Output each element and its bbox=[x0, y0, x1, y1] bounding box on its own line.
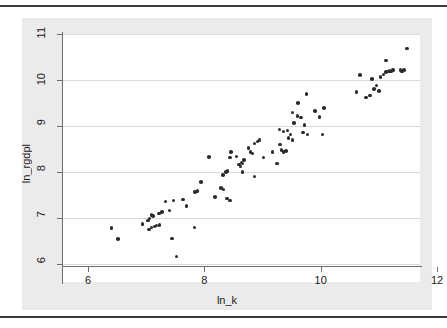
scatter-point bbox=[377, 89, 381, 93]
scatter-point bbox=[286, 129, 290, 133]
scatter-point bbox=[275, 162, 279, 166]
scatter-point bbox=[379, 75, 383, 79]
scatter-point bbox=[253, 175, 257, 179]
x-tick-label: 8 bbox=[194, 274, 214, 286]
scatter-point bbox=[110, 226, 114, 230]
scatter-point bbox=[391, 68, 395, 72]
scatter-point bbox=[170, 237, 174, 241]
scatter-point bbox=[299, 116, 303, 120]
scatter-point bbox=[116, 237, 120, 241]
gridline-y bbox=[62, 264, 420, 265]
y-tick-label: 8 bbox=[36, 165, 50, 171]
scatter-point bbox=[370, 77, 374, 81]
y-tick-label: 9 bbox=[36, 119, 50, 125]
scatter-point bbox=[141, 222, 145, 226]
x-tick-label: 6 bbox=[78, 274, 98, 286]
scatter-point bbox=[313, 109, 317, 113]
scatter-point bbox=[213, 195, 217, 199]
y-tick-mark bbox=[57, 126, 62, 127]
scatter-point bbox=[292, 121, 296, 125]
scatter-point bbox=[318, 115, 322, 119]
scatter-point bbox=[181, 198, 185, 202]
y-tick-mark bbox=[57, 34, 62, 35]
scatter-point bbox=[160, 210, 164, 214]
scatter-point bbox=[196, 189, 200, 193]
scatter-point bbox=[291, 111, 295, 115]
scatter-point bbox=[289, 133, 293, 137]
y-tick-label: 10 bbox=[36, 73, 50, 85]
scatter-point bbox=[278, 128, 282, 132]
page-rule-bottom bbox=[0, 316, 447, 318]
y-tick-label: 6 bbox=[36, 257, 50, 263]
y-tick-mark bbox=[57, 172, 62, 173]
x-axis-line bbox=[62, 266, 422, 267]
scatter-point bbox=[228, 199, 232, 203]
scatter-point bbox=[199, 180, 203, 184]
gridline-y bbox=[62, 80, 420, 81]
scatter-point bbox=[364, 96, 368, 100]
scatter-point bbox=[301, 131, 305, 135]
gridline-y bbox=[62, 126, 420, 127]
scatter-point bbox=[235, 155, 239, 159]
y-axis-title-label: ln_rgdpl bbox=[20, 144, 32, 183]
x-tick-mark bbox=[88, 267, 89, 272]
scatter-point bbox=[282, 130, 286, 134]
scatter-point bbox=[185, 204, 189, 208]
scatter-point bbox=[321, 133, 325, 137]
scatter-point bbox=[306, 133, 310, 137]
scatter-point bbox=[271, 150, 275, 154]
y-tick-mark bbox=[57, 80, 62, 81]
scatter-point bbox=[164, 200, 168, 204]
scatter-point bbox=[251, 152, 255, 156]
scatter-point bbox=[291, 138, 295, 142]
scatter-point bbox=[258, 138, 262, 142]
scatter-point bbox=[384, 59, 388, 63]
x-axis-title-label: ln_k bbox=[217, 294, 237, 306]
scatter-point bbox=[305, 92, 309, 96]
gridline-y bbox=[62, 218, 420, 219]
scatter-point bbox=[228, 156, 232, 160]
gridline-y bbox=[62, 34, 420, 35]
scatter-point bbox=[151, 214, 155, 218]
scatter-point bbox=[175, 255, 179, 259]
scatter-point bbox=[405, 47, 409, 51]
scatter-point bbox=[241, 162, 245, 166]
plot-region bbox=[62, 34, 420, 282]
scatter-point bbox=[229, 150, 233, 154]
scatter-point bbox=[193, 226, 197, 230]
stata-graph-panel: ln_rgdpl 67891011 681012 ln_k bbox=[22, 18, 432, 310]
x-tick-label: 12 bbox=[427, 274, 447, 286]
y-tick-label: 7 bbox=[36, 211, 50, 217]
scatter-point bbox=[207, 155, 211, 159]
scatter-point bbox=[158, 223, 162, 227]
scatter-point bbox=[242, 158, 246, 162]
y-axis-line bbox=[62, 32, 63, 284]
scatter-point bbox=[287, 136, 291, 140]
scatter-point bbox=[402, 68, 406, 72]
scatter-point bbox=[322, 106, 326, 110]
x-tick-label: 10 bbox=[311, 274, 331, 286]
scatter-point bbox=[368, 94, 372, 98]
scatter-point bbox=[296, 101, 300, 105]
y-tick-mark bbox=[57, 218, 62, 219]
scatter-point bbox=[262, 156, 266, 160]
x-tick-mark bbox=[204, 267, 205, 272]
y-tick-mark bbox=[57, 264, 62, 265]
scatter-point bbox=[284, 149, 288, 153]
scatter-point bbox=[239, 165, 243, 169]
x-axis-title: ln_k bbox=[22, 294, 432, 306]
y-tick-label: 11 bbox=[36, 27, 50, 38]
x-tick-mark bbox=[321, 267, 322, 272]
scatter-point bbox=[355, 90, 359, 94]
scatter-point bbox=[172, 199, 176, 203]
y-axis-title: ln_rgdpl bbox=[18, 18, 34, 310]
scatter-point bbox=[278, 143, 282, 147]
scatter-point bbox=[358, 73, 362, 77]
scatter-point bbox=[222, 188, 226, 192]
scatter-point bbox=[168, 209, 172, 213]
x-tick-mark bbox=[437, 267, 438, 272]
scatter-point bbox=[372, 87, 376, 91]
scatter-point bbox=[241, 170, 245, 174]
page-rule-top bbox=[0, 5, 447, 7]
scatter-point bbox=[303, 123, 307, 127]
